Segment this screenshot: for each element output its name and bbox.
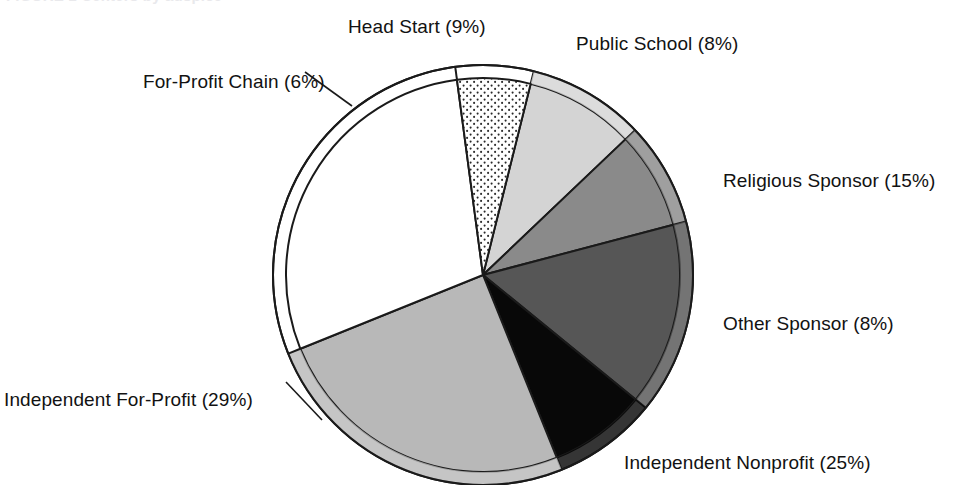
slice-label-head-start: Head Start (9%) xyxy=(348,16,486,38)
slice-label-independent-for-profit: Independent For-Profit (29%) xyxy=(4,389,253,411)
slice-label-public-school: Public School (8%) xyxy=(576,33,738,55)
slice-label-other-sponsor: Other Sponsor (8%) xyxy=(723,313,894,335)
slice-label-independent-nonprofit: Independent Nonprofit (25%) xyxy=(624,452,871,474)
figure-container: FIGURE 1 Centers by auspice Head Start (… xyxy=(0,0,955,485)
pie-slices-group xyxy=(273,65,693,485)
slice-label-for-profit-chain: For-Profit Chain (6%) xyxy=(143,71,325,93)
slice-label-religious-sponsor: Religious Sponsor (15%) xyxy=(723,170,935,192)
